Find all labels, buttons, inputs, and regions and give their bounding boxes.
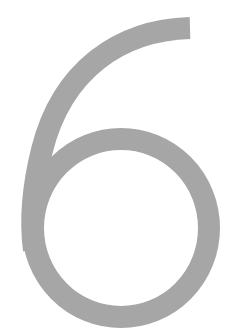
numeral-six-glyph xyxy=(0,0,232,336)
numeral-bowl-stroke xyxy=(33,139,209,317)
numeral-canvas: 6 xyxy=(0,0,232,336)
